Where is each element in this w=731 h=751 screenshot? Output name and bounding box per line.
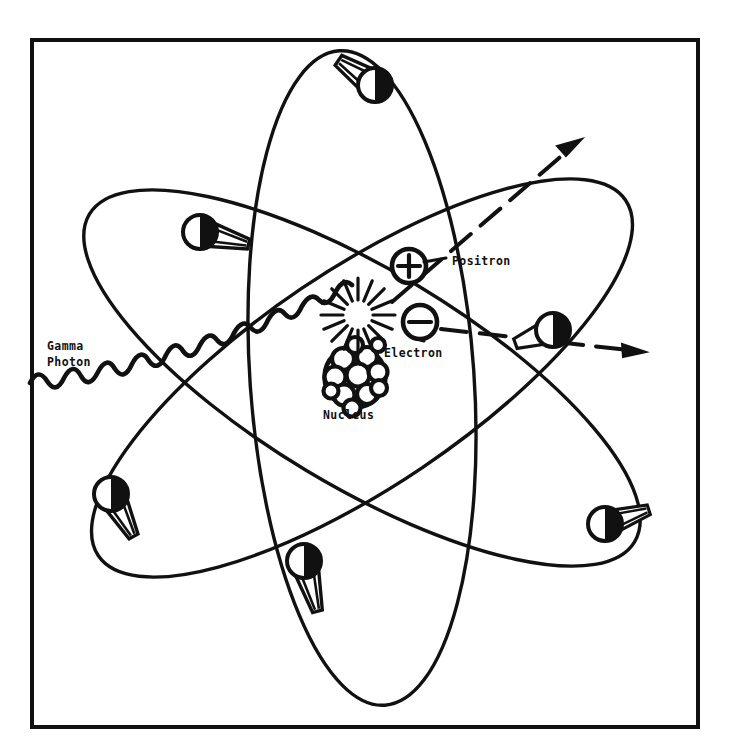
figure-root: Gamma Photon Positron Electron Nucleus [0, 0, 731, 751]
nucleon [371, 380, 387, 396]
positron-particle [392, 249, 426, 283]
pair-production-diagram: Gamma Photon Positron Electron Nucleus [0, 0, 731, 751]
nucleon [324, 384, 339, 399]
nucleus-label: Nucleus [323, 408, 374, 422]
positron-label: Positron [452, 254, 511, 268]
gamma-photon-label-line1: Gamma [47, 339, 84, 353]
electron-label: Electron [384, 346, 443, 360]
electron-particle [403, 305, 437, 339]
gamma-photon-label-line2: Photon [47, 355, 91, 369]
